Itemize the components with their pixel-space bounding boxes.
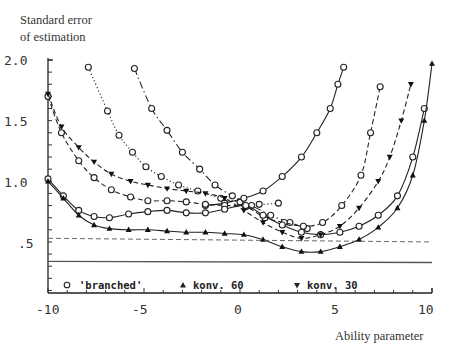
- open-circle-marker-icon: [275, 200, 281, 206]
- open-circle-marker-icon: [241, 195, 247, 201]
- legend-label-branched: 'branched': [79, 279, 142, 291]
- legend-open-circle-icon: [64, 282, 70, 288]
- triangle-down-marker-icon: [241, 208, 247, 213]
- reference-line: [48, 261, 432, 262]
- legend: 'branched' konv. 60 konv. 30: [64, 279, 357, 291]
- open-circle-marker-icon: [279, 173, 285, 179]
- triangle-down-marker-icon: [337, 224, 343, 229]
- y-tick-0.5: .5: [18, 236, 34, 251]
- open-circle-marker-icon: [183, 199, 189, 205]
- series-1: [131, 65, 310, 231]
- triangle-down-marker-icon: [183, 189, 189, 194]
- open-circle-marker-icon: [126, 211, 132, 217]
- series-2: [202, 64, 346, 208]
- axes: [48, 58, 432, 293]
- series-line: [205, 67, 343, 205]
- open-circle-marker-icon: [145, 209, 151, 215]
- triangle-up-marker-icon: [410, 172, 416, 177]
- open-circle-marker-icon: [143, 164, 149, 170]
- open-circle-marker-icon: [129, 149, 135, 155]
- open-circle-marker-icon: [222, 206, 228, 212]
- open-circle-marker-icon: [158, 173, 164, 179]
- open-circle-marker-icon: [176, 182, 182, 188]
- y-tick-2.0: 2.0: [4, 53, 27, 68]
- series-layer: [45, 60, 435, 262]
- open-circle-marker-icon: [377, 84, 383, 90]
- reference-line: [48, 238, 432, 242]
- series-line: [48, 84, 411, 238]
- series-0: [85, 64, 281, 207]
- open-circle-marker-icon: [268, 212, 274, 218]
- series-3: [45, 84, 383, 229]
- open-circle-marker-icon: [179, 149, 185, 155]
- triangle-up-marker-icon: [429, 60, 435, 65]
- open-circle-marker-icon: [91, 175, 97, 181]
- chart-plot: 2.0 1.5 1.0 .5 -10 -5 0 5 10 'branched' …: [0, 0, 453, 359]
- open-circle-marker-icon: [149, 106, 155, 112]
- open-circle-marker-icon: [76, 158, 82, 164]
- open-circle-marker-icon: [229, 193, 235, 199]
- triangle-down-marker-icon: [408, 82, 414, 87]
- open-circle-marker-icon: [91, 213, 97, 219]
- open-circle-marker-icon: [375, 212, 381, 218]
- series-line: [48, 109, 424, 235]
- x-tick-0: 0: [234, 302, 242, 317]
- open-circle-marker-icon: [164, 198, 170, 204]
- triangle-down-marker-icon: [128, 179, 134, 184]
- legend-triangle-down-icon: [294, 283, 300, 289]
- open-circle-marker-icon: [106, 215, 112, 221]
- series-line: [48, 64, 432, 253]
- open-circle-marker-icon: [195, 188, 201, 194]
- series-8: [48, 261, 432, 262]
- open-circle-marker-icon: [202, 210, 208, 216]
- open-circle-marker-icon: [256, 201, 262, 207]
- open-circle-marker-icon: [410, 154, 416, 160]
- open-circle-marker-icon: [300, 223, 306, 229]
- x-tick-10: 10: [418, 302, 434, 317]
- x-tick-5: 5: [331, 302, 339, 317]
- open-circle-marker-icon: [335, 81, 341, 87]
- open-circle-marker-icon: [131, 65, 137, 71]
- open-circle-marker-icon: [394, 193, 400, 199]
- open-circle-marker-icon: [327, 106, 333, 112]
- open-circle-marker-icon: [339, 203, 345, 209]
- legend-label-konv60: konv. 60: [193, 279, 244, 291]
- open-circle-marker-icon: [243, 203, 249, 209]
- series-4: [45, 106, 427, 238]
- legend-triangle-up-icon: [180, 282, 186, 288]
- legend-label-konv30: konv. 30: [307, 279, 358, 291]
- tick-labels: 2.0 1.5 1.0 .5 -10 -5 0 5 10: [4, 53, 434, 317]
- open-circle-marker-icon: [260, 212, 266, 218]
- open-circle-marker-icon: [202, 201, 208, 207]
- open-circle-marker-icon: [314, 130, 320, 136]
- series-5: [45, 60, 435, 253]
- open-circle-marker-icon: [145, 198, 151, 204]
- open-circle-marker-icon: [260, 188, 266, 194]
- triangle-down-marker-icon: [398, 118, 404, 123]
- open-circle-marker-icon: [58, 130, 64, 136]
- open-circle-marker-icon: [298, 154, 304, 160]
- open-circle-marker-icon: [105, 108, 111, 114]
- open-circle-marker-icon: [358, 172, 364, 178]
- open-circle-marker-icon: [164, 207, 170, 213]
- open-circle-marker-icon: [108, 187, 114, 193]
- x-tick-minus5: -5: [132, 302, 148, 317]
- open-circle-marker-icon: [298, 229, 304, 235]
- open-circle-marker-icon: [116, 132, 122, 138]
- triangle-down-marker-icon: [91, 160, 97, 165]
- open-circle-marker-icon: [85, 64, 91, 70]
- triangle-down-marker-icon: [387, 155, 393, 160]
- open-circle-marker-icon: [212, 182, 218, 188]
- open-circle-marker-icon: [341, 64, 347, 70]
- series-7: [48, 238, 432, 242]
- y-tick-1.5: 1.5: [4, 114, 27, 129]
- y-tick-1.0: 1.0: [4, 175, 27, 190]
- open-circle-marker-icon: [337, 229, 343, 235]
- open-circle-marker-icon: [368, 130, 374, 136]
- triangle-down-marker-icon: [260, 220, 266, 225]
- open-circle-marker-icon: [356, 223, 362, 229]
- open-circle-marker-icon: [183, 210, 189, 216]
- open-circle-marker-icon: [320, 220, 326, 226]
- open-circle-marker-icon: [287, 220, 293, 226]
- open-circle-marker-icon: [164, 127, 170, 133]
